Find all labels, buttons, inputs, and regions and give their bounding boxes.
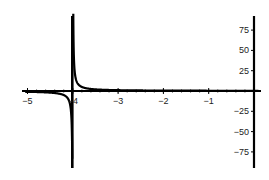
y-tick-label: 25 (239, 66, 249, 76)
x-tick-label: −1 (204, 96, 214, 106)
right-branch (73, 14, 258, 91)
x-tick-label: −4 (68, 96, 78, 106)
x-tick-label: −5 (22, 96, 32, 106)
plot-area: −5−4−3−2−1 755025−25−50−75 (0, 0, 269, 180)
x-tick-label: −3 (113, 96, 123, 106)
y-tick-label: 50 (239, 45, 249, 55)
y-tick-label: −25 (234, 106, 249, 116)
x-tick-label: −2 (158, 96, 168, 106)
axes (22, 16, 261, 168)
y-tick-label: −75 (234, 147, 249, 157)
y-tick-label: −50 (234, 127, 249, 137)
y-tick-label: 75 (239, 25, 249, 35)
